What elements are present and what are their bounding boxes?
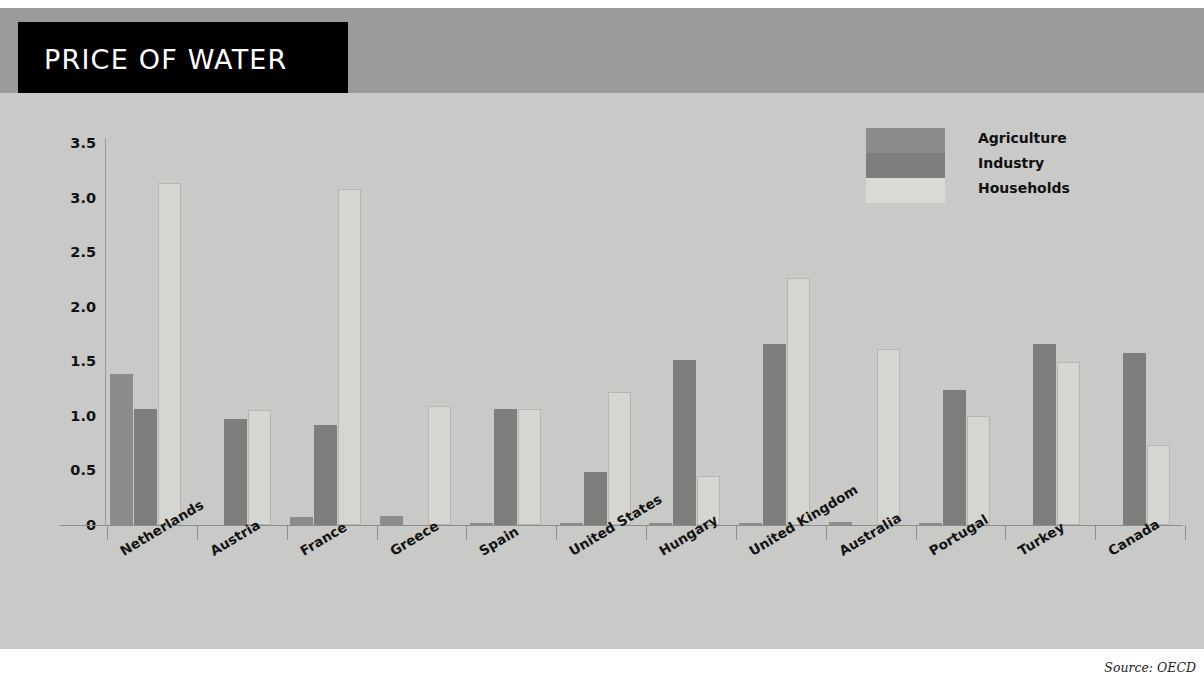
bar-agriculture: [649, 523, 672, 525]
bar-industry: [763, 344, 786, 525]
y-tick-label: 3.0: [52, 190, 96, 206]
chart-legend: Agriculture Industry Households: [866, 128, 1146, 216]
y-tick-label: 1.5: [52, 353, 96, 369]
bar-agriculture: [380, 516, 403, 525]
bar-agriculture: [739, 523, 762, 525]
bar-industry: [1033, 344, 1056, 525]
bar-industry: [134, 409, 157, 525]
bar-households: [1057, 362, 1080, 525]
x-tick: [1095, 525, 1096, 540]
footer-strip: [0, 649, 1204, 659]
y-tick-label: 0.5: [52, 462, 96, 478]
bar-agriculture: [290, 517, 313, 525]
x-tick: [107, 525, 108, 540]
legend-swatch-agriculture: [866, 128, 945, 153]
bar-households: [248, 410, 271, 525]
bar-industry: [943, 390, 966, 525]
bar-agriculture: [560, 523, 583, 525]
bar-group: [649, 143, 720, 525]
legend-label-households: Households: [978, 180, 1070, 196]
x-tick: [916, 525, 917, 540]
bar-industry: [584, 472, 607, 525]
bar-industry: [314, 425, 337, 525]
y-axis-ticks: 00.51.01.52.02.53.03.5: [38, 138, 96, 525]
bar-industry: [224, 419, 247, 525]
x-tick: [1005, 525, 1006, 540]
x-tick: [287, 525, 288, 540]
bar-industry: [494, 409, 517, 525]
bar-households: [518, 409, 541, 525]
bar-industry: [673, 360, 696, 525]
bar-industry: [1123, 353, 1146, 525]
bar-group: [739, 143, 810, 525]
legend-label-industry: Industry: [978, 155, 1044, 171]
poster-root: PRICE OF WATER 00.51.01.52.02.53.03.5 Pr…: [0, 0, 1204, 683]
bar-group: [470, 143, 541, 525]
bar-agriculture: [110, 374, 133, 525]
x-tick: [377, 525, 378, 540]
header-band: PRICE OF WATER: [0, 8, 1204, 93]
legend-swatch-households: [866, 178, 945, 203]
y-tick-label: 2.0: [52, 299, 96, 315]
bar-households: [967, 416, 990, 525]
title-box: PRICE OF WATER: [18, 22, 348, 96]
x-tick: [1185, 525, 1186, 540]
bar-group: [380, 143, 451, 525]
bar-agriculture: [829, 522, 852, 525]
bar-group: [290, 143, 361, 525]
legend-label-agriculture: Agriculture: [978, 130, 1067, 146]
bar-households: [608, 392, 631, 525]
bar-group: [110, 143, 181, 525]
bar-households: [158, 183, 181, 525]
bar-households: [1147, 445, 1170, 525]
y-tick-label: 3.5: [52, 135, 96, 151]
bar-agriculture: [470, 523, 493, 525]
x-tick: [826, 525, 827, 540]
bar-group: [560, 143, 631, 525]
x-tick: [556, 525, 557, 540]
bar-households: [428, 406, 451, 525]
x-tick: [646, 525, 647, 540]
x-category-label: Spain: [476, 523, 521, 559]
bar-households: [877, 349, 900, 525]
chart-area: 00.51.01.52.02.53.03.5 Price in US$ per …: [0, 93, 1204, 649]
bar-households: [787, 278, 810, 525]
bar-group: [200, 143, 271, 525]
x-tick: [197, 525, 198, 540]
bar-households: [338, 189, 361, 525]
bar-agriculture: [919, 523, 942, 525]
x-tick: [466, 525, 467, 540]
y-tick-label: 2.5: [52, 244, 96, 260]
page-title: PRICE OF WATER: [44, 44, 288, 75]
legend-swatch-industry: [866, 153, 945, 178]
source-note: Source: OECD: [1104, 660, 1196, 675]
x-tick: [736, 525, 737, 540]
y-tick-label: 1.0: [52, 408, 96, 424]
